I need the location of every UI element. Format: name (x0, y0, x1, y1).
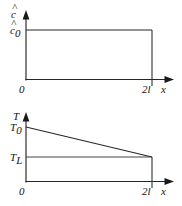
concentration-profile-panel: c ^ c0 ^ 0 2l x (0, 0, 182, 103)
x-tick-label-2l: 2l (142, 185, 151, 197)
x-tick-label-2l: 2l (142, 83, 151, 95)
origin-label: 0 (19, 185, 25, 197)
temperature-plot: T T0 TL 0 2l x (0, 100, 182, 206)
x-axis-arrowhead (165, 76, 175, 83)
y-axis-arrowhead (23, 10, 30, 20)
origin-label: 0 (19, 83, 25, 95)
y-axis-label-hat-accent: ^ (12, 1, 18, 13)
y-axis-arrowhead (23, 112, 30, 122)
x-axis-label: x (160, 185, 166, 197)
x-axis-label: x (160, 83, 166, 95)
x-axis-arrowhead (165, 178, 175, 185)
concentration-plot: c ^ c0 ^ 0 2l x (0, 0, 182, 103)
temperature-slope-line (26, 127, 152, 157)
y-tick-label-c0-hat-accent: ^ (11, 17, 17, 29)
temperature-profile-panel: T T0 TL 0 2l x (0, 100, 182, 206)
y-tick-label-tl: TL (10, 151, 22, 166)
y-tick-label-t0: T0 (10, 121, 22, 136)
figure-root: c ^ c0 ^ 0 2l x (0, 0, 182, 206)
